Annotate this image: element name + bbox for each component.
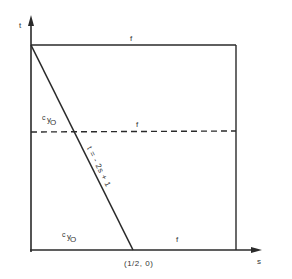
t-axis-label: t — [19, 22, 21, 30]
lower-constraint-label: c y O — [62, 231, 78, 247]
dashed-boundary — [31, 131, 236, 132]
diagram-canvas — [0, 0, 292, 279]
o-symbol: O — [50, 119, 56, 127]
point-label: (1/2, 0) — [124, 260, 153, 268]
diagonal-line — [31, 45, 133, 250]
s-axis-arrow-icon — [251, 247, 262, 253]
o-symbol: O — [70, 236, 76, 244]
upper-constraint-label: c y O — [42, 114, 58, 130]
c-symbol: c — [62, 231, 66, 238]
s-axis-label: s — [257, 258, 261, 266]
middle-region-label: f — [136, 121, 138, 129]
top-region-label: f — [130, 35, 132, 43]
bottom-region-label: f — [176, 236, 178, 244]
t-axis-arrow-icon — [28, 15, 34, 26]
c-symbol: c — [42, 114, 46, 121]
